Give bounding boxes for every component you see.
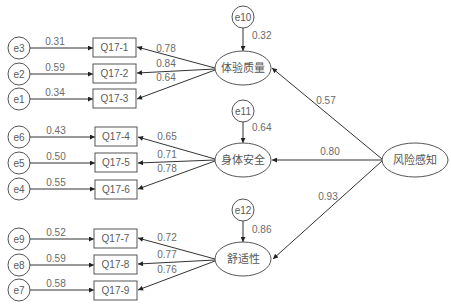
indicator-q17-5: Q17-5: [95, 153, 137, 172]
error-e7: e7: [8, 279, 30, 301]
svg-text:Q17-6: Q17-6: [102, 184, 130, 195]
residual-weight-e11: 0.64: [252, 122, 272, 133]
error-e8: e8: [8, 254, 30, 276]
error-e2: e2: [8, 63, 30, 85]
svg-text:Q17-9: Q17-9: [102, 285, 130, 296]
error-e1: e1: [8, 88, 30, 110]
path-weight-comfort: 0.93: [318, 191, 338, 202]
svg-text:e2: e2: [13, 69, 25, 80]
path-weight-experience-quality: 0.57: [316, 95, 336, 106]
svg-text:Q17-4: Q17-4: [102, 131, 130, 142]
svg-text:e12: e12: [235, 205, 252, 216]
error-weight-e1: 0.34: [45, 87, 65, 98]
error-weight-e9: 0.52: [46, 227, 66, 238]
path-weight-physical-safety: 0.80: [320, 146, 340, 157]
error-weight-e2: 0.59: [45, 62, 65, 73]
error-weight-e3: 0.31: [45, 36, 65, 47]
latent-factor-physical-safety: 身体安全: [215, 143, 271, 177]
indicator-q17-1: Q17-1: [93, 38, 136, 57]
svg-text:体验质量: 体验质量: [221, 61, 265, 75]
factor-group-2: e6 e5 e4 0.43 0.50 0.55 Q17-4 Q17-5 Q17-…: [8, 100, 272, 200]
residual-weight-e12: 0.86: [252, 224, 272, 235]
svg-text:e6: e6: [13, 132, 25, 143]
loading-q17-3: 0.64: [156, 72, 176, 83]
svg-text:e3: e3: [13, 43, 25, 54]
indicator-q17-7: Q17-7: [94, 229, 137, 248]
loading-q17-6: 0.78: [157, 163, 177, 174]
svg-text:身体安全: 身体安全: [221, 153, 265, 167]
error-e6: e6: [8, 126, 30, 148]
svg-text:风险感知: 风险感知: [393, 153, 437, 167]
loading-q17-2: 0.84: [156, 58, 176, 69]
residual-weight-e10: 0.32: [252, 30, 272, 41]
loading-q17-7: 0.72: [157, 232, 177, 243]
error-weight-e6: 0.43: [46, 125, 66, 136]
indicator-q17-2: Q17-2: [93, 64, 136, 83]
loading-q17-9: 0.76: [157, 264, 177, 275]
sem-diagram: e3 e2 e1 0.31 0.59 0.34 Q17-1 Q17-2 Q17-…: [0, 0, 451, 307]
residual-e12: e12: [232, 199, 254, 221]
error-weight-e8: 0.59: [46, 253, 66, 264]
loading-q17-5: 0.71: [157, 149, 177, 160]
error-weight-e4: 0.55: [46, 177, 66, 188]
svg-text:Q17-5: Q17-5: [102, 157, 130, 168]
loading-q17-4: 0.65: [157, 131, 177, 142]
indicator-q17-4: Q17-4: [95, 127, 137, 146]
svg-text:舒适性: 舒适性: [227, 252, 260, 266]
indicator-q17-3: Q17-3: [93, 89, 136, 108]
loading-q17-8: 0.77: [157, 249, 177, 260]
svg-text:e5: e5: [13, 158, 25, 169]
error-weight-e7: 0.58: [46, 278, 66, 289]
error-e4: e4: [8, 178, 30, 200]
svg-text:Q17-3: Q17-3: [101, 93, 129, 104]
factor-group-1: e3 e2 e1 0.31 0.59 0.34 Q17-1 Q17-2 Q17-…: [8, 6, 272, 110]
indicator-q17-9: Q17-9: [94, 281, 137, 300]
error-weight-e5: 0.50: [46, 151, 66, 162]
factor-group-3: e9 e8 e7 0.52 0.59 0.58 Q17-7 Q17-8 Q17-…: [8, 199, 272, 301]
latent-factor-comfort: 舒适性: [215, 242, 271, 276]
svg-text:e9: e9: [13, 234, 25, 245]
loading-q17-1: 0.78: [156, 43, 176, 54]
svg-text:e11: e11: [235, 106, 251, 117]
svg-text:e4: e4: [13, 184, 25, 195]
svg-text:Q17-2: Q17-2: [101, 68, 129, 79]
indicator-q17-6: Q17-6: [95, 180, 137, 199]
svg-text:Q17-1: Q17-1: [101, 42, 129, 53]
error-e3: e3: [8, 37, 30, 59]
error-e5: e5: [8, 152, 30, 174]
svg-text:e1: e1: [13, 94, 25, 105]
residual-e10: e10: [232, 6, 254, 28]
risk-perception-group: 0.57 0.80 0.93 风险感知: [272, 68, 448, 259]
svg-text:Q17-7: Q17-7: [102, 233, 130, 244]
svg-text:e8: e8: [13, 260, 25, 271]
residual-e11: e11: [232, 100, 254, 122]
indicator-q17-8: Q17-8: [94, 255, 137, 274]
latent-factor-risk-perception: 风险感知: [382, 143, 448, 177]
svg-text:e7: e7: [13, 285, 25, 296]
svg-text:Q17-8: Q17-8: [102, 259, 130, 270]
latent-factor-experience-quality: 体验质量: [215, 51, 271, 85]
error-e9: e9: [8, 228, 30, 250]
svg-text:e10: e10: [235, 12, 252, 23]
